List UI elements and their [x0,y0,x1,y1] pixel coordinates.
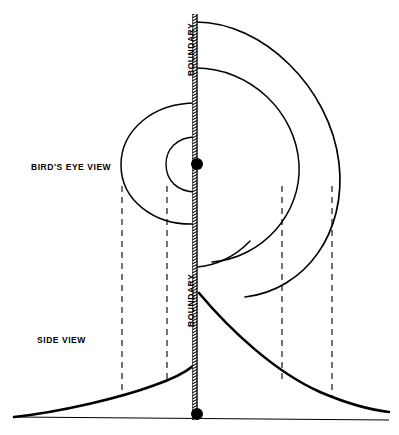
side-view-left-curve [14,366,193,417]
side-view-label: SIDE VIEW [37,336,86,345]
spiral-arc-outer [196,22,340,297]
base-dot-marker [191,408,203,420]
center-dot-marker [191,158,203,170]
projection-lines-group [122,186,332,396]
side-view-group [14,293,389,420]
boundary-label-bottom: BOUNDARY [187,274,196,327]
birds-eye-view-group [121,22,340,297]
spiral-arc-second [196,68,299,262]
diagram-canvas: BIRD'S EYE VIEW SIDE VIEW BOUNDARY BOUND… [0,0,399,435]
spiral-arc-third-left [121,103,196,224]
side-view-right-curve [199,293,389,412]
birds-eye-view-label: BIRD'S EYE VIEW [31,163,111,172]
boundary-label-top: BOUNDARY [187,23,196,76]
diagram-svg [0,0,399,435]
